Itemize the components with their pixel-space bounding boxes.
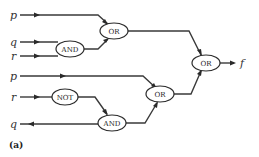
input-label-p-bottom: p — [10, 70, 17, 83]
arrow-icon — [34, 40, 40, 45]
output-label-f: f — [239, 57, 246, 70]
gate-label: OR — [200, 60, 212, 68]
wire-p-bottom — [20, 76, 156, 88]
gate-label: AND — [103, 120, 121, 128]
and-gate-bottom: AND — [98, 115, 126, 131]
arrow-icon — [60, 74, 66, 79]
logic-circuit-diagram: AND OR OR NOT AND OR p q r p r q f (a) — [0, 0, 259, 157]
arrow-icon — [34, 54, 40, 59]
or-gate-final: OR — [192, 55, 220, 71]
not-gate-bottom: NOT — [52, 89, 78, 105]
arrow-icon — [34, 95, 40, 100]
input-label-r-top: r — [11, 50, 17, 63]
wire-or-top-to-final — [128, 31, 201, 55]
input-label-q-bottom: q — [10, 118, 17, 131]
arrow-icon — [28, 122, 34, 127]
arrow-icon — [230, 61, 236, 66]
or-gate-bottom: OR — [146, 86, 174, 102]
wire-and-to-or-bottom — [126, 103, 157, 123]
gate-label: NOT — [57, 94, 74, 102]
gate-label: OR — [108, 28, 120, 36]
input-label-p-top: p — [10, 9, 17, 22]
figure-caption: (a) — [9, 140, 23, 150]
or-gate-top: OR — [100, 23, 128, 39]
wire-p-top — [20, 15, 108, 24]
gate-label: OR — [154, 91, 166, 99]
input-label-q-top: q — [10, 36, 17, 49]
wire-not-to-and — [77, 97, 107, 114]
input-label-r-bottom: r — [11, 91, 17, 104]
wire-or-bottom-to-final — [174, 71, 201, 94]
and-gate-top: AND — [56, 41, 84, 57]
gate-label: AND — [61, 46, 79, 54]
arrow-icon — [34, 13, 40, 18]
